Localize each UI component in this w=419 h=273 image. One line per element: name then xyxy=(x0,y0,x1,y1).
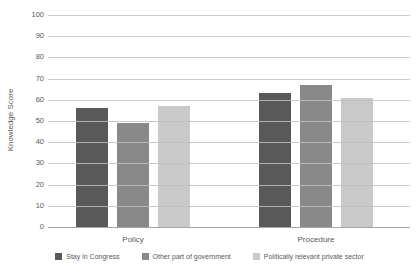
y-tick-label: 0 xyxy=(20,223,44,231)
legend-swatch-icon xyxy=(142,253,149,260)
y-tick-label: 20 xyxy=(20,181,44,189)
y-tick-label: 100 xyxy=(20,11,44,19)
y-tick-label: 90 xyxy=(20,32,44,40)
legend-item: Politically relevant private sector xyxy=(253,253,364,260)
bar xyxy=(117,123,149,227)
legend-item: Other part of government xyxy=(142,253,231,260)
bar xyxy=(76,108,108,227)
y-tick-label: 30 xyxy=(20,159,44,167)
gridline xyxy=(48,100,410,101)
legend-label: Politically relevant private sector xyxy=(264,253,364,260)
plot-area xyxy=(48,15,410,227)
bar xyxy=(341,98,373,227)
y-tick-label: 10 xyxy=(20,202,44,210)
legend-item: Stay in Congress xyxy=(55,253,119,260)
gridline xyxy=(48,206,410,207)
x-axis-line xyxy=(48,227,410,228)
y-tick-label: 70 xyxy=(20,75,44,83)
gridline xyxy=(48,15,410,16)
y-tick-label: 60 xyxy=(20,96,44,104)
legend-label: Stay in Congress xyxy=(66,253,119,260)
gridline xyxy=(48,163,410,164)
legend: Stay in CongressOther part of government… xyxy=(0,253,419,260)
gridline xyxy=(48,36,410,37)
y-tick-label: 80 xyxy=(20,53,44,61)
gridline xyxy=(48,121,410,122)
y-tick-label: 50 xyxy=(20,117,44,125)
legend-swatch-icon xyxy=(55,253,62,260)
gridline xyxy=(48,185,410,186)
gridline xyxy=(48,79,410,80)
category-label: Policy xyxy=(76,235,190,244)
y-axis-title: Knowledge Score xyxy=(5,60,17,180)
gridline xyxy=(48,142,410,143)
bar xyxy=(259,93,291,227)
legend-label: Other part of government xyxy=(153,253,231,260)
y-tick-label: 40 xyxy=(20,138,44,146)
bar xyxy=(158,106,190,227)
legend-swatch-icon xyxy=(253,253,260,260)
category-label: Procedure xyxy=(259,235,373,244)
gridline xyxy=(48,57,410,58)
bar-chart: Knowledge Score PolicyProcedure Stay in … xyxy=(0,0,419,273)
